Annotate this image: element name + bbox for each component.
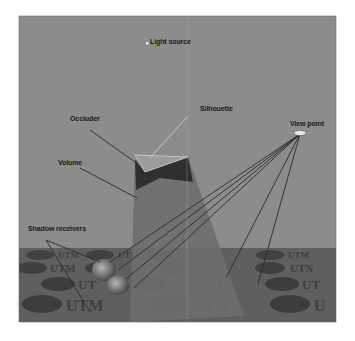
light-source-dot xyxy=(146,42,149,45)
svg-text:UTN: UTN xyxy=(290,262,313,274)
svg-text:UT: UT xyxy=(78,277,96,292)
label-silhouette: Silhouette xyxy=(200,105,233,112)
shadow-volume-figure: UTM UTM UTM UTM UTM UTM UTN UT UTM UT xyxy=(0,0,355,341)
svg-text:UT: UT xyxy=(302,277,320,292)
svg-text:UTM: UTM xyxy=(66,297,103,314)
svg-text:UTM: UTM xyxy=(58,250,80,260)
label-light-source: Light source xyxy=(150,38,191,45)
label-volume: Volume xyxy=(58,159,82,166)
svg-text:UTM: UTM xyxy=(288,250,310,260)
shadow-receiver-sphere-2 xyxy=(107,275,129,295)
label-occluder: Occluder xyxy=(70,115,100,122)
scene-illustration: UTM UTM UTM UTM UTM UTM UTN UT UTM UT xyxy=(0,0,355,341)
label-shadow-receivers: Shadow receivers xyxy=(28,225,86,232)
svg-text:U: U xyxy=(314,297,326,314)
view-point-marker xyxy=(294,130,306,135)
label-view-point: View point xyxy=(290,120,324,127)
